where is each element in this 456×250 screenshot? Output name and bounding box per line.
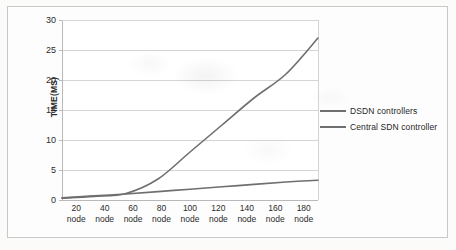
x-axis-tick-label: 20node [62, 203, 90, 239]
x-axis-tick-label: 140node [233, 203, 261, 239]
y-axis-tick-label: 10 [26, 136, 56, 145]
y-axis-tick-label: 5 [26, 166, 56, 175]
y-axis-tick-labels: 051015202530 [26, 0, 56, 250]
x-axis-tick-label: 100node [176, 203, 204, 239]
y-axis-tick-label: 20 [26, 76, 56, 85]
legend-item-label: Central SDN controller [350, 122, 437, 132]
y-axis-tick-label: 0 [26, 196, 56, 205]
chart-legend: DSDN controllers Central SDN controller [320, 103, 446, 135]
x-axis-tick-label: 80node [147, 203, 175, 239]
x-axis-tick-label: 60node [119, 203, 147, 239]
legend-line-swatch-icon [320, 110, 346, 112]
legend-item-dsdn-controllers: DSDN controllers [320, 103, 446, 119]
y-axis-tick-label: 15 [26, 106, 56, 115]
y-axis-tick-label: 25 [26, 46, 56, 55]
x-axis-tick-label: 40node [90, 203, 118, 239]
x-axis-tick-label: 160node [261, 203, 289, 239]
y-axis-tick-label: 30 [26, 16, 56, 25]
x-axis-tick-label: 180node [290, 203, 318, 239]
x-axis-tick-labels: 20node40node60node80node100node120node14… [62, 203, 318, 239]
legend-item-label: DSDN controllers [350, 106, 417, 116]
x-axis-tick-label: 120node [204, 203, 232, 239]
legend-line-swatch-icon [320, 126, 346, 128]
figure-container: TIME(MS) 051015202530 20node40node60node… [0, 0, 456, 250]
legend-item-central-sdn-controller: Central SDN controller [320, 119, 446, 135]
